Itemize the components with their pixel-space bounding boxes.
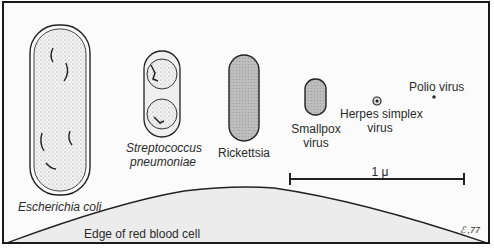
artist-signature: ℰ ,77: [460, 223, 480, 237]
streptococcus-label-line1: Streptococcus: [126, 141, 200, 155]
smallpox-label-line1: Smallpox: [286, 122, 346, 136]
herpes-label-line1: Herpes simplex: [340, 107, 420, 121]
streptococcus-cell: [144, 51, 180, 137]
smallpox-label: Smallpox virus: [286, 122, 346, 150]
scale-bar-label: 1 μ: [360, 165, 400, 179]
ecoli-cell: [30, 25, 90, 195]
rbc-label: Edge of red blood cell: [84, 227, 200, 241]
streptococcus-label-line2: pneumoniae: [126, 155, 200, 169]
smallpox-label-line2: virus: [286, 136, 346, 150]
polio-label: Polio virus: [409, 80, 464, 94]
red-blood-cell-edge: [4, 187, 490, 244]
herpes-virus: [373, 97, 381, 105]
diagram-frame: Escherichia coli Streptococcus pneumonia…: [2, 1, 490, 244]
streptococcus-label: Streptococcus pneumoniae: [126, 141, 200, 169]
rickettsia-label: Rickettsia: [214, 146, 274, 160]
polio-virus: [432, 95, 436, 99]
ecoli-label: Escherichia coli: [18, 200, 101, 214]
rickettsia-cell: [229, 55, 259, 141]
smallpox-virus: [305, 79, 326, 115]
herpes-label-line2: virus: [340, 121, 420, 135]
herpes-label: Herpes simplex virus: [340, 107, 420, 135]
